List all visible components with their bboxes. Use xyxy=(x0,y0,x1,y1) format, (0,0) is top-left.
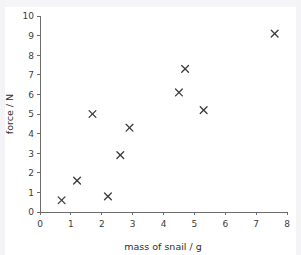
data-point-marker xyxy=(117,152,124,159)
x-tick-label: 5 xyxy=(192,219,198,229)
y-tick-label: 2 xyxy=(28,168,34,178)
y-tick-label: 0 xyxy=(28,207,34,217)
x-axis-title: mass of snail / g xyxy=(124,241,202,252)
x-tick-label: 3 xyxy=(130,219,136,229)
y-axis-title: force / N xyxy=(4,94,15,134)
data-point-group xyxy=(58,30,278,203)
data-point-marker xyxy=(58,197,65,204)
x-tick-label: 6 xyxy=(222,219,228,229)
x-tick-label: 8 xyxy=(284,219,290,229)
x-tick-label: 0 xyxy=(37,219,43,229)
y-tick-group: 012345678910 xyxy=(23,11,40,217)
y-tick-label: 1 xyxy=(28,188,34,198)
x-tick-label: 4 xyxy=(161,219,167,229)
data-point-marker xyxy=(74,177,81,184)
y-tick-label: 3 xyxy=(28,149,34,159)
data-point-marker xyxy=(271,30,278,37)
y-tick-label: 8 xyxy=(28,51,34,61)
y-tick-label: 6 xyxy=(28,90,34,100)
x-tick-label: 1 xyxy=(68,219,74,229)
x-tick-label: 2 xyxy=(99,219,105,229)
scatter-chart-figure: 012345678 012345678910 mass of snail / g… xyxy=(0,0,301,255)
y-tick-label: 10 xyxy=(23,11,35,21)
data-point-marker xyxy=(89,111,96,118)
data-point-marker xyxy=(126,124,133,131)
data-point-marker xyxy=(105,193,112,200)
plot-area: 012345678 012345678910 mass of snail / g… xyxy=(0,0,301,255)
x-tick-group: 012345678 xyxy=(37,212,290,229)
data-point-marker xyxy=(176,89,183,96)
y-tick-label: 9 xyxy=(28,31,34,41)
y-tick-label: 7 xyxy=(28,70,34,80)
data-point-marker xyxy=(200,107,207,114)
axes-group xyxy=(40,16,287,212)
y-tick-label: 4 xyxy=(28,129,34,139)
y-tick-label: 5 xyxy=(28,109,34,119)
x-tick-label: 7 xyxy=(253,219,259,229)
data-point-marker xyxy=(182,66,189,73)
